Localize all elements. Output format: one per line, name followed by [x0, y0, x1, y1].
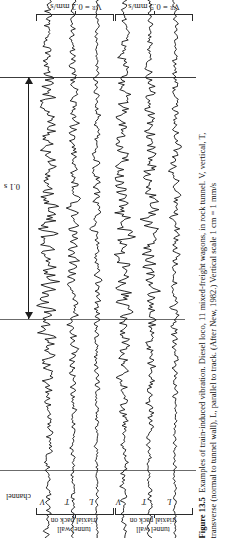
pack-bracket-left: [36, 508, 114, 515]
group-bracket-right: [115, 14, 193, 21]
time-scale-label: 0.1 s: [4, 182, 20, 192]
caption-line-2: transverse (normal to tunnel wall), L, p…: [207, 0, 218, 538]
trace-group2-channel-L: [160, 0, 190, 538]
scale-arrow-shaft: [28, 77, 29, 319]
caption-text-1: Examples of train-induced vibration. Die…: [196, 132, 206, 492]
figure-number: Figure 13.5: [196, 497, 206, 538]
channel-header-label: channel: [6, 492, 31, 501]
channel-label-group1-V: V: [40, 497, 45, 506]
time-scale-arrow: [22, 77, 36, 319]
pack-bracket-right: [115, 508, 193, 515]
figure-plate: Vᴿ = 0.2 mm/s Vᴿ = 0.5 mm/s 0.1 s channe…: [0, 0, 196, 538]
pack-label-left-line2: tunnel wall: [57, 525, 91, 534]
channel-label-group2-T: T: [142, 497, 146, 506]
scale-arrow-head-bottom: [25, 312, 33, 319]
amplitude-label-right: Vᴿ = 0.5 mm/s: [116, 2, 192, 12]
channel-label-group1-T: T: [65, 497, 69, 506]
pack-label-right-line2: tunnel wall: [136, 525, 170, 534]
channel-label-group1-L: L: [89, 497, 93, 506]
pack-label-right-line1: triaxial pack on: [130, 517, 177, 526]
channel-label-group2-L: L: [167, 497, 171, 506]
channel-label-group2-V: V: [116, 497, 121, 506]
figure-caption: Figure 13.5 Examples of train-induced vi…: [196, 0, 227, 538]
group-bracket-left: [36, 14, 114, 21]
pack-label-right: tunnel wall triaxial pack on: [110, 516, 196, 533]
pack-label-left: tunnel wall triaxial pack on: [31, 516, 117, 533]
scale-arrow-head-top: [25, 77, 33, 84]
amplitude-label-left: Vᴿ = 0.2 mm/s: [38, 2, 114, 12]
trace-group1-channel-L: [82, 0, 112, 538]
pack-label-left-line1: triaxial pack on: [51, 517, 98, 526]
caption-line-1: Figure 13.5 Examples of train-induced vi…: [196, 0, 207, 538]
